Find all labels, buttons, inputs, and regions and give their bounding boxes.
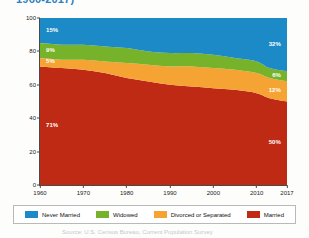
x-tick-1980: 1980 xyxy=(120,185,133,196)
y-tick-60: 60 xyxy=(29,82,40,88)
stacked-area-svg xyxy=(40,18,287,185)
legend-swatch-widowed xyxy=(96,211,109,218)
x-tick-2000: 2000 xyxy=(207,185,220,196)
chart-page: 1960-2017) Percent of Population 0204060… xyxy=(0,0,309,238)
y-tick-100: 100 xyxy=(26,15,40,21)
x-tick-2010: 2010 xyxy=(250,185,263,196)
x-tick-2017: 2017 xyxy=(280,185,293,196)
x-tick-1960: 1960 xyxy=(33,185,46,196)
source-caption: Source: U.S. Census Bureau, Current Popu… xyxy=(62,229,306,238)
chart-legend: Never Married Widowed Divorced or Separa… xyxy=(13,205,296,224)
legend-item-never-married[interactable]: Never Married xyxy=(25,211,80,218)
legend-label-widowed: Widowed xyxy=(113,212,138,218)
y-tick-20: 20 xyxy=(29,149,40,155)
data-label-widowed-right: 6% xyxy=(272,72,281,78)
data-label-never-married-left: 15% xyxy=(46,27,58,33)
legend-swatch-married xyxy=(247,211,260,218)
legend-swatch-divorced-or-separated xyxy=(154,211,167,218)
data-label-divorced-or-separated-right: 12% xyxy=(269,87,281,93)
page-title-text: 1960-2017) xyxy=(16,0,196,5)
data-label-never-married-right: 32% xyxy=(269,41,281,47)
legend-item-widowed[interactable]: Widowed xyxy=(96,211,138,218)
y-tick-80: 80 xyxy=(29,48,40,54)
legend-label-divorced-or-separated: Divorced or Separated xyxy=(171,212,231,218)
stacked-area-chart: Percent of Population 020406080100 19601… xyxy=(13,13,297,201)
x-tick-1990: 1990 xyxy=(163,185,176,196)
page-title-clipped: 1960-2017) xyxy=(16,0,196,5)
legend-swatch-never-married xyxy=(25,211,38,218)
plot-canvas xyxy=(40,18,287,185)
legend-item-divorced-or-separated[interactable]: Divorced or Separated xyxy=(154,211,231,218)
plot-area: 020406080100 196019701980199020002010201… xyxy=(39,18,287,186)
data-label-married-right: 50% xyxy=(269,139,281,145)
x-tick-1970: 1970 xyxy=(77,185,90,196)
data-label-widowed-left: 9% xyxy=(46,47,55,53)
data-label-married-left: 71% xyxy=(46,122,58,128)
y-tick-40: 40 xyxy=(29,115,40,121)
legend-item-married[interactable]: Married xyxy=(247,211,284,218)
legend-label-married: Married xyxy=(264,212,284,218)
data-label-divorced-or-separated-left: 5% xyxy=(46,58,55,64)
legend-label-never-married: Never Married xyxy=(42,212,80,218)
